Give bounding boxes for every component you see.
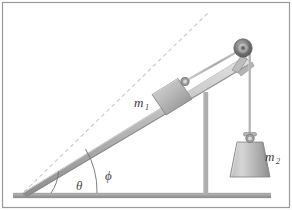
label-mass-1-subscript: 1 bbox=[145, 103, 149, 112]
ground-surface bbox=[13, 193, 271, 198]
rope-segment-vertical bbox=[249, 48, 251, 134]
label-mass-2-subscript: 2 bbox=[276, 157, 280, 166]
label-mass-1-letter: m bbox=[134, 95, 143, 110]
diagram-canvas: m 1 m 2 θ ϕ bbox=[0, 0, 292, 210]
hanging-weight-mass-2[interactable] bbox=[230, 142, 270, 177]
vertical-support-post bbox=[204, 92, 208, 194]
block-attachment-ring bbox=[181, 77, 189, 85]
label-angle-theta: θ bbox=[76, 178, 83, 193]
pulley-wheel[interactable] bbox=[234, 39, 252, 57]
label-angle-phi: ϕ bbox=[105, 168, 112, 183]
physics-diagram-figure: m 1 m 2 θ ϕ bbox=[0, 0, 292, 210]
label-mass-2-letter: m bbox=[265, 149, 274, 164]
